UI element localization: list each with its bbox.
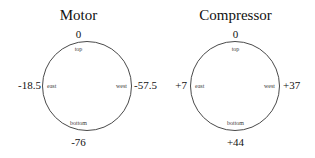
value-bottom-motor: -76 bbox=[0, 136, 157, 149]
panel-compressor: Compressor 0 top +7 east +37 west bottom… bbox=[157, 0, 314, 158]
label-west-compressor: west bbox=[253, 82, 275, 90]
panel-title-motor: Motor bbox=[0, 6, 157, 24]
value-west-compressor: +37 bbox=[283, 79, 313, 92]
value-bottom-compressor: +44 bbox=[157, 136, 314, 149]
panel-motor: Motor 0 top -18.5 east -57.5 west bottom… bbox=[0, 0, 157, 158]
label-east-compressor: east bbox=[195, 82, 217, 90]
value-east-motor: -18.5 bbox=[3, 79, 41, 92]
label-top-motor: top bbox=[0, 45, 157, 53]
value-east-compressor: +7 bbox=[157, 79, 187, 92]
label-west-motor: west bbox=[105, 82, 127, 90]
panel-title-compressor: Compressor bbox=[157, 6, 314, 24]
label-bottom-motor: bottom bbox=[0, 119, 157, 127]
label-bottom-compressor: bottom bbox=[157, 119, 314, 127]
label-top-compressor: top bbox=[157, 45, 314, 53]
figure-canvas: Motor 0 top -18.5 east -57.5 west bottom… bbox=[0, 0, 315, 158]
value-top-compressor: 0 bbox=[157, 28, 314, 41]
label-east-motor: east bbox=[47, 82, 69, 90]
value-top-motor: 0 bbox=[0, 28, 157, 41]
